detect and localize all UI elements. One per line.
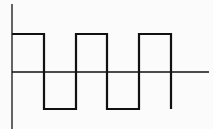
square-wave-figure (0, 0, 213, 129)
square-wave-diagram (0, 0, 213, 129)
